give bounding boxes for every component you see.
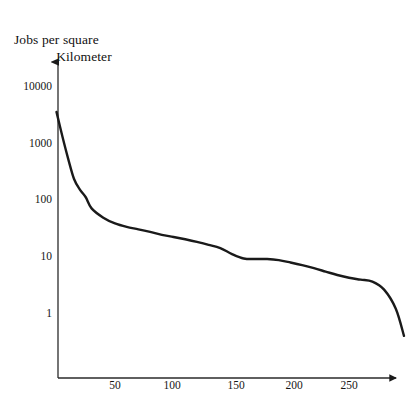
- x-tick-label-150: 150: [227, 379, 245, 391]
- y-tick-label-10: 10: [41, 250, 53, 262]
- x-tick-label-200: 200: [285, 379, 303, 391]
- y-tick-label-1000: 1000: [29, 137, 52, 149]
- y-tick-label-100: 100: [35, 193, 53, 205]
- plot-area: 10000 1000 100 10 1 50 100 150 200 250: [0, 0, 417, 419]
- y-tick-label-10000: 10000: [23, 80, 52, 92]
- x-tick-label-50: 50: [109, 379, 121, 391]
- data-series-line: [57, 112, 404, 336]
- x-tick-label-250: 250: [340, 379, 358, 391]
- x-tick-label-100: 100: [163, 379, 181, 391]
- y-tick-label-1: 1: [46, 307, 52, 319]
- chart-figure: Jobs per square Kilometer 10000 1000 100…: [0, 0, 417, 419]
